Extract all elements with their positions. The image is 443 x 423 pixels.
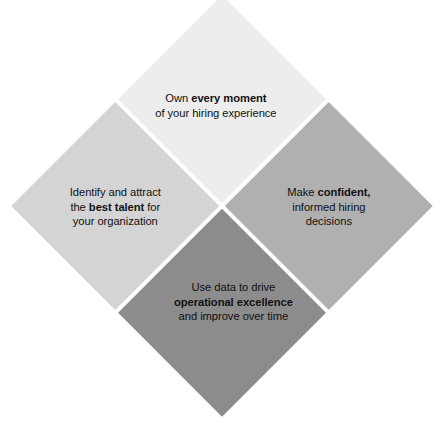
diamond-quadrant-top-caption: Own every momentof your hiring experienc… [115,91,315,120]
diamond-quadrant-bottom-caption: Use data to driveoperational excellencea… [133,279,333,323]
diamond-quadrant-left-caption: Identify and attractthe best talent fory… [15,184,215,228]
diamond-quadrant-right-caption: Make confident,informed hiringdecisions [228,184,428,228]
diamond-grid: Own every momentof your hiring experienc… [11,0,432,417]
diamond-diagram: Own every momentof your hiring experienc… [0,0,443,423]
